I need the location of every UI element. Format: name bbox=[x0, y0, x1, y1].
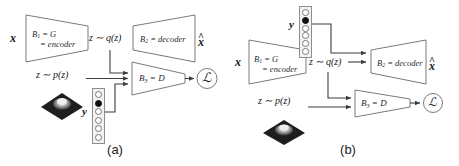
latent-posterior-label-a: z ∼ q(z) bbox=[89, 33, 121, 43]
encoder-label-line2-a: = encoder bbox=[40, 40, 75, 49]
arrow-posterior-to-discriminator-a bbox=[110, 50, 128, 73]
hat-accent: ^ bbox=[429, 56, 435, 66]
decoder-label-b: B2 = decoder bbox=[377, 59, 422, 69]
onehot-cell-active bbox=[302, 17, 309, 24]
onehot-vector-b bbox=[299, 6, 312, 58]
onehot-cell bbox=[95, 134, 102, 141]
latent-posterior-label-b: z ∼ q(z) bbox=[309, 57, 341, 67]
onehot-cell bbox=[95, 91, 102, 98]
onehot-cell bbox=[302, 40, 309, 47]
onehot-cell bbox=[95, 117, 102, 124]
arrow-posterior-to-discriminator-b bbox=[328, 72, 351, 98]
caption-b: (b) bbox=[318, 142, 378, 157]
caption-a: (a) bbox=[85, 142, 145, 157]
loss-label-a: ℒ bbox=[202, 71, 211, 84]
arrow-condition-to-decoder-b bbox=[311, 24, 366, 53]
figure-container: x B1 = G = encoder z ∼ q(z) B2 = decoder… bbox=[0, 0, 459, 166]
loss-label-b: ℒ bbox=[428, 96, 437, 108]
discriminator-label-a: B3 = D bbox=[139, 74, 165, 84]
discriminator-label-b: B3 = D bbox=[361, 99, 387, 109]
hat-accent: ^ bbox=[198, 32, 204, 42]
onehot-cell-active bbox=[95, 100, 102, 107]
input-label-x-a: x bbox=[10, 32, 16, 44]
onehot-cell bbox=[302, 25, 309, 32]
onehot-cell bbox=[302, 48, 309, 55]
onehot-vector-a bbox=[92, 88, 105, 144]
output-label-xhat-a: ^x bbox=[198, 36, 204, 48]
onehot-cell bbox=[302, 32, 309, 39]
latent-prior-label-a: z ∼ p(z) bbox=[36, 70, 68, 80]
decoder-label-a: B2 = decoder bbox=[140, 35, 185, 45]
onehot-cell bbox=[302, 9, 309, 16]
onehot-cell bbox=[95, 108, 102, 115]
onehot-cell bbox=[95, 125, 102, 132]
panel-a: x B1 = G = encoder z ∼ q(z) B2 = decoder… bbox=[0, 0, 229, 166]
input-label-x-b: x bbox=[235, 56, 241, 68]
latent-prior-label-b: z ∼ p(z) bbox=[258, 96, 290, 106]
prior-density-surface-a bbox=[38, 88, 86, 122]
encoder-label-line2-b: = encoder bbox=[262, 65, 297, 74]
prior-density-surface-b bbox=[260, 115, 308, 147]
condition-label-y-b: y bbox=[289, 19, 294, 30]
output-label-xhat-b: ^x bbox=[429, 60, 435, 72]
condition-label-y-a: y bbox=[82, 106, 87, 117]
panel-b: y x B1 = G = encoder z ∼ q(z) B2 = decod… bbox=[230, 0, 459, 166]
arrow-condition-to-discriminator-a bbox=[105, 84, 128, 112]
